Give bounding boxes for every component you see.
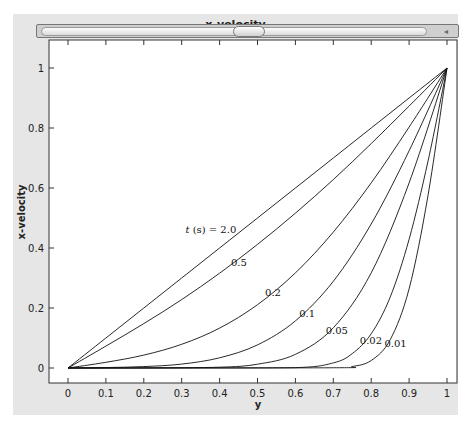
y-tick-label: 0 — [38, 363, 44, 374]
plot-area — [49, 40, 457, 383]
x-tick-label: 0.2 — [136, 388, 152, 399]
y-tick-label: 0.6 — [28, 183, 44, 194]
curve-label: 0.02 — [360, 335, 382, 346]
curve-label: t (s) = 2.0 — [185, 224, 236, 235]
x-tick-label: 0.9 — [401, 388, 417, 399]
x-tick-label: 0.8 — [363, 388, 379, 399]
curve-label: 0.1 — [299, 308, 315, 319]
x-tick-label: 0 — [65, 388, 71, 399]
x-axis-label: y — [255, 399, 262, 410]
curve-label: 0.5 — [231, 257, 247, 268]
x-tick-label: 0.3 — [174, 388, 190, 399]
x-tick-label: 0.6 — [287, 388, 303, 399]
curve-label: 0.05 — [326, 325, 348, 336]
line-chart: 00.10.20.30.40.50.60.70.80.91 00.20.40.6… — [0, 0, 473, 423]
curve-label: 0.01 — [384, 338, 406, 349]
y-tick-label: 0.2 — [28, 303, 44, 314]
x-tick-label: 0.7 — [325, 388, 341, 399]
curve-label: 0.2 — [265, 287, 281, 298]
y-tick-label: 1 — [38, 63, 44, 74]
y-axis-label: x-velocity — [16, 184, 27, 239]
x-tick-label: 0.1 — [98, 388, 114, 399]
x-tick-label: 1 — [444, 388, 450, 399]
y-tick-label: 0.4 — [28, 243, 44, 254]
y-tick-label: 0.8 — [28, 123, 44, 134]
x-tick-label: 0.5 — [250, 388, 266, 399]
x-tick-label: 0.4 — [212, 388, 228, 399]
